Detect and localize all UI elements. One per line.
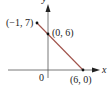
label-point-6-0: (6, 0) (70, 74, 92, 86)
x-axis-arrow-icon (92, 68, 100, 73)
point-6-0 (82, 69, 85, 72)
y-axis-arrow-icon (46, 4, 51, 12)
label-y-axis: y (41, 0, 47, 4)
label-point-neg1-7: (−1, 7) (6, 17, 33, 29)
label-point-0-6: (0, 6) (52, 27, 74, 39)
point-0-6 (47, 33, 50, 36)
label-origin: 0 (39, 72, 44, 83)
graph-canvas: (−1, 7) (0, 6) (6, 0) 0 x y (0, 0, 108, 87)
label-x-axis: x (101, 64, 107, 75)
point-neg1-7 (36, 22, 39, 25)
